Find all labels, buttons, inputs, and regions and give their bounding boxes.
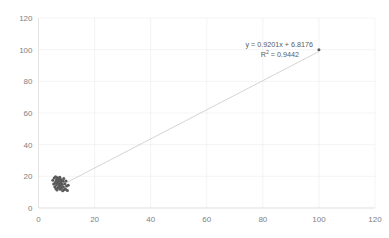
y-axis-tick-label: 40 [24, 141, 33, 150]
x-axis-tick-label: 100 [312, 215, 326, 224]
scatter-chart: 020406080100120 020406080100120 y = 0.92… [0, 0, 389, 238]
trendline [67, 52, 319, 183]
linear-trendline [67, 52, 319, 183]
x-axis-tick-label: 60 [202, 215, 211, 224]
x-axis-tick-label: 80 [258, 215, 267, 224]
y-axis-tick-label: 80 [24, 77, 33, 86]
y-axis-tick-label: 100 [19, 46, 33, 55]
y-axis-tick-label: 0 [28, 204, 33, 213]
data-point-marker [62, 177, 65, 180]
x-axis-tick-label: 0 [36, 215, 41, 224]
data-point-marker [66, 189, 69, 192]
data-point-marker [62, 180, 65, 183]
data-point-marker [67, 184, 70, 187]
y-axis-tick-label: 60 [24, 109, 33, 118]
chart-canvas: 020406080100120 020406080100120 y = 0.92… [0, 0, 389, 238]
x-axis-tick-label: 40 [146, 215, 155, 224]
gridlines [39, 18, 376, 208]
data-point-marker [317, 48, 320, 51]
y-axis-tick-label: 120 [19, 14, 33, 23]
x-axis-tick-label: 120 [368, 215, 382, 224]
x-axis-tick-labels: 020406080100120 [36, 215, 382, 224]
x-axis-tick-label: 20 [90, 215, 99, 224]
data-point-marker [64, 179, 67, 182]
r-squared-label: R2 = 0.9442 [261, 49, 299, 59]
trendline-equation-label: y = 0.9201x + 6.8176 [245, 40, 313, 49]
y-axis-tick-label: 20 [24, 172, 33, 181]
y-axis-tick-labels: 020406080100120 [19, 14, 33, 213]
